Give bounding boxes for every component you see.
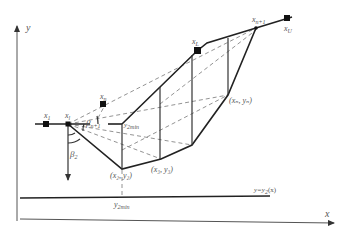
beta-arc-inner [68,133,75,135]
beta2-label: β2 [69,149,77,160]
x-axis-label: x [324,208,330,219]
lower-bound-line [20,196,270,198]
xn1-label: xn+1 [251,15,266,25]
slip-surface-diagram: y x y=y2(x) y2min [0,0,361,233]
x1-label: x1 [43,111,51,121]
p3-label: (x₃, y₃) [151,165,173,174]
lower-bound-label: y=y2(x) [253,186,277,195]
xn1-marker [254,26,258,30]
xn-top-label: xn [99,92,107,102]
x-axis [20,219,334,223]
xl-marker [66,122,71,127]
pn-label: (xₙ, yₙ) [229,96,252,105]
xU-label: xU [283,24,293,34]
beta2-arc [68,139,80,143]
xL-marker [194,47,201,54]
ground-surface [122,17,292,124]
xL-label: xL [191,37,200,47]
y2min-inner-label: y2min [123,121,139,130]
y-axis-label: y [25,22,31,33]
y2min-bottom-label: y2min [113,200,130,210]
xl-label: xl [64,111,71,121]
p2-label: (x₂, y₂) [110,171,132,180]
xU-marker [284,15,290,21]
x1-marker [43,121,49,127]
